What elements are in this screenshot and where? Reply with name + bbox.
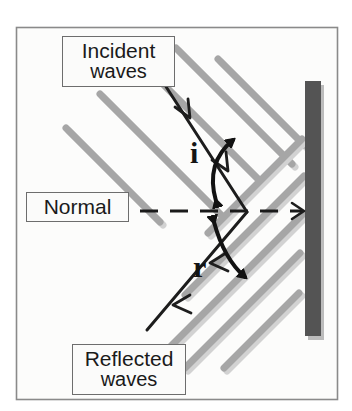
angle-of-incidence-label: i	[190, 138, 198, 168]
angle-of-reflection-label: r	[193, 252, 206, 282]
mirror-bar	[305, 81, 324, 340]
normal-label-line1: Normal	[33, 196, 122, 217]
incident-waves-label: Incident waves	[62, 36, 175, 87]
reflected-waves-label-line1: Reflected	[78, 348, 180, 369]
reflected-waves-label-line2: waves	[78, 369, 180, 389]
reflection-diagram: i r Incident waves Normal Reflected wave…	[0, 0, 352, 411]
normal-label: Normal	[26, 192, 129, 222]
incident-waves-label-line1: Incident	[68, 40, 169, 61]
reflected-waves-label: Reflected waves	[72, 344, 186, 395]
incident-waves-label-line2: waves	[68, 61, 169, 81]
